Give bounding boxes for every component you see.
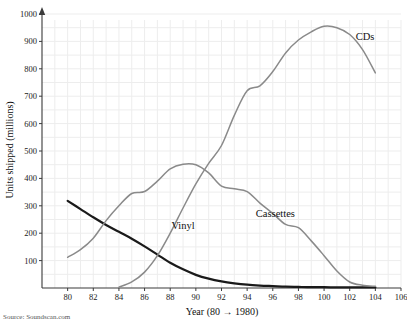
x-tick-label: 84 xyxy=(115,292,124,302)
x-tick-label: 80 xyxy=(63,292,72,302)
x-tick-label: 100 xyxy=(318,292,331,302)
y-tick-label: 100 xyxy=(24,256,37,266)
x-tick-label: 104 xyxy=(369,292,383,302)
x-tick-label: 94 xyxy=(243,292,252,302)
y-tick-label: 800 xyxy=(24,64,37,74)
y-tick-label: 900 xyxy=(24,36,37,46)
y-tick-label: 300 xyxy=(24,201,37,211)
y-tick-label: 1000 xyxy=(20,9,37,19)
y-axis-title: Units shipped (millions) xyxy=(4,101,16,198)
gridlines xyxy=(42,14,401,288)
y-axis-ticks: 1002003004005006007008009001000 xyxy=(20,9,42,266)
line-chart: 1002003004005006007008009001000 80828486… xyxy=(0,0,407,321)
y-tick-label: 200 xyxy=(24,228,37,238)
x-tick-label: 98 xyxy=(294,292,303,302)
x-tick-label: 92 xyxy=(217,292,226,302)
y-tick-label: 600 xyxy=(24,119,37,129)
series-label-vinyl: Vinyl xyxy=(171,220,194,231)
series-label-cassettes: Cassettes xyxy=(256,208,295,219)
source-note: Source: Soundscan.com xyxy=(3,313,71,321)
y-tick-label: 500 xyxy=(24,146,37,156)
x-tick-label: 88 xyxy=(166,292,175,302)
series-label-cds: CDs xyxy=(356,31,375,42)
x-tick-label: 82 xyxy=(89,292,98,302)
x-tick-label: 86 xyxy=(140,292,149,302)
chart-container: 1002003004005006007008009001000 80828486… xyxy=(0,0,407,321)
x-axis-ticks: 80828486889092949698100102104106 xyxy=(63,288,407,302)
x-tick-label: 90 xyxy=(192,292,201,302)
x-tick-label: 106 xyxy=(395,292,407,302)
x-tick-label: 102 xyxy=(343,292,356,302)
y-tick-label: 700 xyxy=(24,91,37,101)
x-tick-label: 96 xyxy=(269,292,278,302)
y-tick-label: 400 xyxy=(24,173,37,183)
x-axis-title: Year (80 → 1980) xyxy=(186,306,259,318)
